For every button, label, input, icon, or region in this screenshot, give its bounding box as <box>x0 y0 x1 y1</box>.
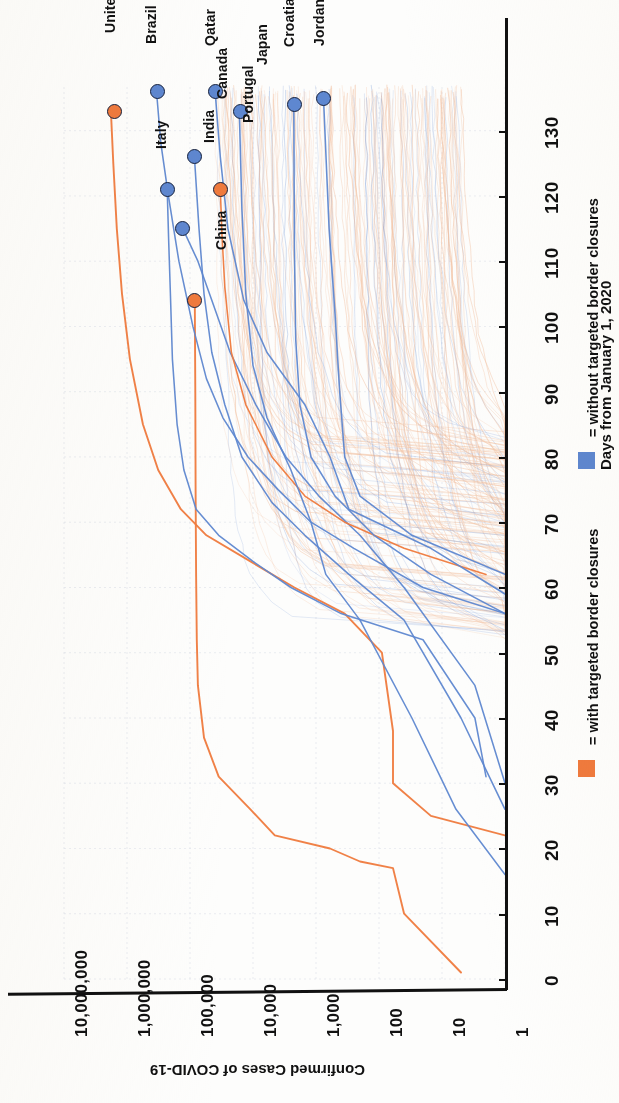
marker-croatia <box>287 97 302 112</box>
days-tick-label-20: 20 <box>541 840 563 862</box>
country-label-united-states: United States <box>102 0 118 33</box>
cases-tick-label-10: 10 <box>450 1018 470 1037</box>
days-tick-label-50: 50 <box>541 644 563 666</box>
days-tick-label-110: 110 <box>541 248 563 280</box>
days-tick-label-130: 130 <box>541 116 563 149</box>
days-tick-label-10: 10 <box>541 905 563 927</box>
days-tick-30 <box>499 783 507 785</box>
days-tick-50 <box>499 653 507 655</box>
days-axis-line <box>505 18 508 990</box>
country-label-jordan: Jordan <box>311 0 327 46</box>
marker-italy <box>160 182 175 197</box>
chart-stage: 0102030405060708090100110120130 1101001,… <box>0 0 619 1103</box>
country-label-italy: Italy <box>153 121 169 150</box>
country-label-qatar: Qatar <box>202 8 218 45</box>
marker-united-states <box>107 104 122 119</box>
country-label-canada: Canada <box>214 48 230 99</box>
cases-tick-label-1000000: 1,000,000 <box>135 960 155 1037</box>
country-label-brazil: Brazil <box>143 5 159 44</box>
y-axis-title: Confirmed Cases of COVID-19 <box>150 1062 365 1079</box>
cases-tick-label-100: 100 <box>387 1008 407 1037</box>
marker-brazil <box>150 84 165 99</box>
legend-swatch-with <box>578 760 595 777</box>
days-tick-110 <box>499 261 507 263</box>
days-tick-10 <box>499 914 507 916</box>
days-tick-130 <box>499 131 507 133</box>
days-tick-label-80: 80 <box>541 448 563 470</box>
days-tick-80 <box>499 457 507 459</box>
country-label-china: China <box>213 211 229 250</box>
days-tick-label-40: 40 <box>541 709 563 731</box>
days-tick-40 <box>499 718 507 720</box>
cases-tick-label-100000: 100,000 <box>198 974 218 1037</box>
days-tick-20 <box>499 848 507 850</box>
legend-label-with: = with targeted border closures <box>585 529 601 745</box>
cases-tick-label-1: 1 <box>513 1027 533 1037</box>
days-tick-100 <box>499 326 507 328</box>
chart-page: 0102030405060708090100110120130 1101001,… <box>0 0 619 1103</box>
cases-tick-label-1000: 1,000 <box>324 993 344 1037</box>
days-tick-label-120: 120 <box>541 181 563 214</box>
days-tick-0 <box>499 979 507 981</box>
marker-jordan <box>316 91 331 106</box>
marker-china <box>187 293 202 308</box>
cases-tick-label-10000: 10,000 <box>261 984 281 1037</box>
days-tick-120 <box>499 196 507 198</box>
days-tick-label-30: 30 <box>541 774 563 796</box>
country-label-croatia: Croatia <box>281 0 297 47</box>
days-tick-label-0: 0 <box>541 975 563 986</box>
curves-svg <box>57 22 505 987</box>
days-tick-70 <box>499 522 507 524</box>
days-tick-label-60: 60 <box>541 579 563 601</box>
country-label-japan: Japan <box>254 24 270 65</box>
marker-portugal <box>213 182 228 197</box>
days-tick-60 <box>499 587 507 589</box>
legend-label-without: = without targeted border closures <box>585 198 601 437</box>
line-china <box>195 300 461 972</box>
plot-area <box>57 22 505 987</box>
days-tick-label-90: 90 <box>541 383 563 405</box>
days-tick-label-100: 100 <box>541 312 563 345</box>
days-tick-90 <box>499 392 507 394</box>
gridlines <box>64 85 505 979</box>
days-tick-label-70: 70 <box>541 513 563 535</box>
country-label-portugal: Portugal <box>240 66 256 124</box>
cases-tick-label-10000000: 10,000,000 <box>72 950 92 1037</box>
legend-swatch-without <box>578 452 595 469</box>
country-label-india: India <box>201 109 217 142</box>
